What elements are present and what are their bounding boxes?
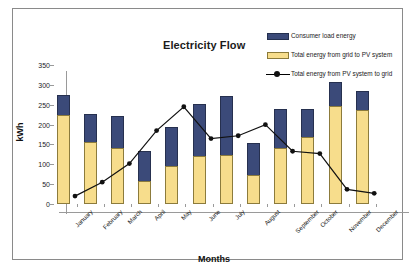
- y-axis-tick-label: 0: [28, 201, 50, 208]
- x-axis-tick-mark: [349, 204, 350, 207]
- x-axis-tick-mark: [294, 204, 295, 207]
- x-axis-tick-label: May: [179, 208, 192, 221]
- y-axis-tick-label: 100: [28, 161, 50, 168]
- line-data-point: [345, 187, 350, 192]
- y-axis-tick-label: 250: [28, 101, 50, 108]
- x-axis-tick-label: April: [152, 208, 166, 222]
- x-axis-tick-mark: [185, 204, 186, 207]
- legend-label: Consumer load energy: [291, 31, 356, 40]
- bar-grid-to-pv: [301, 137, 314, 204]
- legend-line-marker-icon: [265, 69, 291, 81]
- bar-grid-to-pv: [165, 166, 178, 204]
- y-axis-tick-label: 200: [28, 121, 50, 128]
- legend-item-consumer-load: Consumer load energy: [265, 31, 415, 43]
- line-data-point: [236, 133, 241, 138]
- bar-grid-to-pv: [138, 181, 151, 204]
- bar-grid-to-pv: [57, 115, 70, 204]
- y-axis-tick-label: 50: [28, 181, 50, 188]
- y-axis-tick-mark: [50, 125, 54, 126]
- y-axis-tick-mark: [50, 105, 54, 106]
- x-axis-line: [59, 212, 409, 213]
- bar-grid-to-pv: [220, 155, 233, 204]
- x-axis-tick-label: July: [233, 208, 246, 221]
- line-data-point: [181, 104, 186, 109]
- line-data-point: [372, 191, 377, 196]
- x-axis-tick-mark: [240, 204, 241, 207]
- y-axis-title: kWh: [15, 123, 25, 142]
- y-axis-tick-mark: [50, 85, 54, 86]
- line-data-point: [263, 122, 268, 127]
- legend-label: Total energy from grid to PV system: [291, 50, 392, 59]
- line-data-point: [209, 136, 214, 141]
- y-axis-tick-mark: [50, 65, 54, 66]
- legend-item-grid-to-pv: Total energy from grid to PV system: [265, 50, 415, 62]
- x-axis-tick-label: March: [126, 208, 143, 225]
- x-axis-tick-mark: [376, 204, 377, 207]
- y-axis-tick-mark: [50, 184, 54, 185]
- chart-legend: Consumer load energy Total energy from g…: [265, 31, 415, 88]
- bar-grid-to-pv: [274, 148, 287, 204]
- x-axis-tick-mark: [77, 204, 78, 207]
- x-axis-tick-mark: [321, 204, 322, 207]
- bar-grid-to-pv: [111, 148, 124, 204]
- bar-grid-to-pv: [329, 106, 342, 204]
- legend-label: Total energy from PV system to grid: [291, 69, 392, 78]
- chart-title: Electricity Flow: [163, 39, 245, 51]
- y-axis-tick-label: 150: [28, 141, 50, 148]
- x-axis-tick-mark: [267, 204, 268, 207]
- x-axis-tick-label: June: [207, 208, 221, 222]
- x-axis-tick-mark: [104, 204, 105, 207]
- y-axis-tick-mark: [50, 204, 54, 205]
- x-axis-tick-mark: [131, 204, 132, 207]
- line-data-point: [100, 180, 105, 185]
- y-axis-tick-mark: [50, 144, 54, 145]
- chart-frame: Electricity Flow Consumer load energy To…: [12, 8, 403, 260]
- legend-swatch-yellow-icon: [265, 50, 291, 62]
- bar-grid-to-pv: [84, 142, 97, 204]
- bar-grid-to-pv: [247, 175, 260, 204]
- x-axis-tick-label: August: [263, 208, 282, 227]
- line-data-point: [317, 151, 322, 156]
- line-data-point: [290, 149, 295, 154]
- bar-grid-to-pv: [356, 110, 369, 204]
- line-data-point: [127, 161, 132, 166]
- y-axis-tick-label: 300: [28, 81, 50, 88]
- line-data-point: [73, 194, 78, 199]
- x-axis-tick-mark: [158, 204, 159, 207]
- y-axis-tick-label: 350: [28, 62, 50, 69]
- x-axis-title: Months: [198, 254, 230, 264]
- y-axis-tick-mark: [50, 164, 54, 165]
- x-axis-tick-mark: [213, 204, 214, 207]
- line-data-point: [154, 128, 159, 133]
- legend-swatch-blue-icon: [265, 31, 291, 43]
- legend-item-pv-to-grid: Total energy from PV system to grid: [265, 69, 415, 81]
- bar-grid-to-pv: [193, 156, 206, 204]
